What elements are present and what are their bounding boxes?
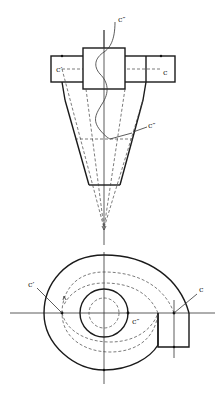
label-c-double-mid: c″ <box>148 121 155 130</box>
label-c-double-top: c″ <box>118 15 125 24</box>
plan-label-c-double: c″ <box>132 317 139 326</box>
label-c: c <box>163 68 168 77</box>
plan-label-c: c <box>199 285 204 294</box>
cone-left-wall <box>65 100 89 185</box>
leader-c-double <box>110 133 132 139</box>
plan-view: c′ c c″ <box>10 252 215 384</box>
elevation-view: c″ c′ c c″ <box>51 15 175 245</box>
outer-scroll <box>44 255 189 370</box>
label-c-prime: c′ <box>56 65 62 74</box>
cyclone-diagram: c″ c′ c c″ c′ c c″ <box>0 0 223 396</box>
plan-label-c-prime: c′ <box>28 280 34 289</box>
plan-inlet <box>158 313 189 347</box>
cone-right-wall <box>120 100 143 185</box>
